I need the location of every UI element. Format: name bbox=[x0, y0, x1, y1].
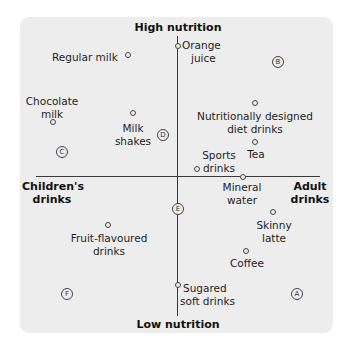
segment-marker-f: F bbox=[61, 288, 73, 300]
label-tea: Tea bbox=[245, 148, 267, 161]
label-line: drinks bbox=[64, 245, 154, 258]
point-tea bbox=[252, 139, 258, 145]
label-orange-juice: Orange juice bbox=[182, 39, 221, 65]
label-line: diet drinks bbox=[190, 123, 320, 136]
axis-label-low-nutrition: Low nutrition bbox=[128, 318, 228, 331]
axis-label-line: Children's bbox=[22, 180, 82, 193]
point-mineral-water bbox=[240, 174, 246, 180]
label-chocolate-milk: Chocolate milk bbox=[22, 95, 82, 121]
segment-marker-a: A bbox=[291, 288, 303, 300]
label-fruit-flavoured-drinks: Fruit-flavoured drinks bbox=[64, 232, 154, 258]
segment-marker-e: E bbox=[172, 203, 184, 215]
label-milk-shakes: Milk shakes bbox=[113, 122, 153, 148]
label-line: Sugared bbox=[180, 282, 235, 295]
label-line: water bbox=[216, 194, 268, 207]
point-coffee bbox=[243, 248, 249, 254]
point-fruit-flavoured-drinks bbox=[105, 222, 111, 228]
point-orange-juice bbox=[175, 43, 181, 49]
label-line: Sports bbox=[199, 149, 239, 162]
axis-label-line: drinks bbox=[22, 193, 82, 206]
label-regular-milk: Regular milk bbox=[52, 51, 118, 64]
label-line: milk bbox=[22, 108, 82, 121]
label-line: Orange bbox=[182, 39, 221, 52]
point-skinny-latte bbox=[270, 209, 276, 215]
label-diet-drinks: Nutritionally designed diet drinks bbox=[190, 110, 320, 136]
label-line: shakes bbox=[113, 135, 153, 148]
axis-label-high-nutrition: High nutrition bbox=[128, 21, 228, 34]
segment-marker-c: C bbox=[56, 146, 68, 158]
segment-marker-b: B bbox=[272, 56, 284, 68]
label-line: latte bbox=[250, 232, 298, 245]
segment-marker-d: D bbox=[157, 129, 169, 141]
label-line: Skinny bbox=[250, 219, 298, 232]
label-line: Chocolate bbox=[22, 95, 82, 108]
label-line: drinks bbox=[199, 162, 239, 175]
label-sugared-soft-drinks: Sugared soft drinks bbox=[180, 282, 235, 308]
axis-label-adult-drinks: Adult drinks bbox=[290, 180, 330, 206]
label-line: soft drinks bbox=[180, 295, 235, 308]
label-line: juice bbox=[182, 52, 221, 65]
label-line: Nutritionally designed bbox=[190, 110, 320, 123]
axis-label-line: Adult bbox=[290, 180, 330, 193]
point-regular-milk bbox=[125, 52, 131, 58]
label-sports-drinks: Sports drinks bbox=[199, 149, 239, 175]
point-milk-shakes bbox=[130, 110, 136, 116]
label-line: Fruit-flavoured bbox=[64, 232, 154, 245]
label-line: Mineral bbox=[216, 181, 268, 194]
label-coffee: Coffee bbox=[226, 257, 268, 270]
axis-label-line: drinks bbox=[290, 193, 330, 206]
age-axis bbox=[36, 176, 320, 177]
axis-label-childrens-drinks: Children's drinks bbox=[22, 180, 82, 206]
label-line: Milk bbox=[113, 122, 153, 135]
point-diet-drinks bbox=[252, 100, 258, 106]
label-skinny-latte: Skinny latte bbox=[250, 219, 298, 245]
label-mineral-water: Mineral water bbox=[216, 181, 268, 207]
